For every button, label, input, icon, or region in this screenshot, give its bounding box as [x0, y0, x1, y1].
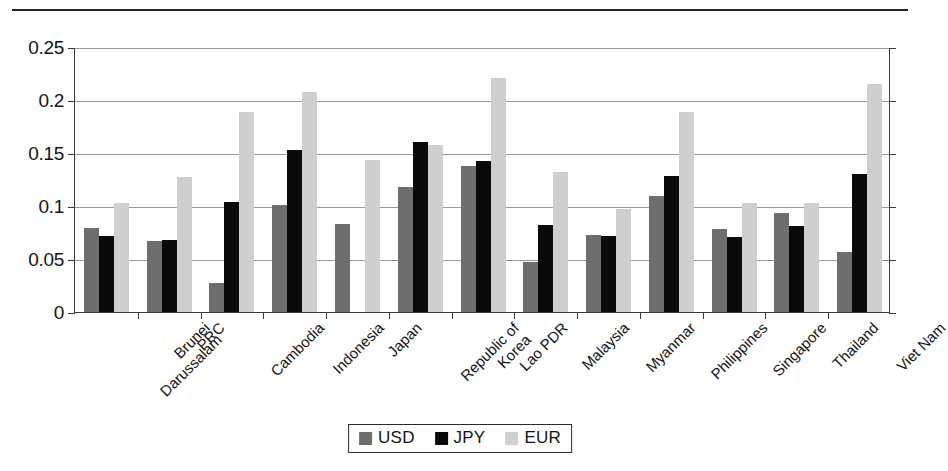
y-tick-mark [68, 207, 75, 208]
x-axis-label: Malaysia [578, 319, 632, 373]
legend-label: EUR [524, 428, 561, 448]
x-axis-label: Philippines [708, 319, 771, 382]
bar-usd [523, 262, 538, 312]
x-axis-label-line: Indonesia [329, 319, 387, 377]
y-tick-mark-right [889, 154, 896, 155]
bar-eur [491, 78, 506, 312]
x-axis-label: Japan [384, 319, 425, 360]
bar-jpy [664, 176, 679, 312]
bar-usd [147, 241, 162, 312]
bar-jpy [162, 240, 177, 312]
y-tick-label: 0.2 [38, 90, 64, 112]
x-axis-label-line: Japan [384, 319, 425, 360]
bar-eur [177, 177, 192, 312]
x-axis-label-line: Thailand [829, 319, 882, 372]
x-axis-label: Thailand [829, 319, 882, 372]
y-tick-mark [68, 48, 75, 49]
y-tick-mark-right [889, 101, 896, 102]
x-axis-label-line: Cambodia [267, 319, 327, 379]
legend-label: JPY [454, 428, 486, 448]
bar-jpy [789, 226, 804, 312]
y-tick-label: 0 [54, 302, 64, 324]
bar-eur [302, 92, 317, 312]
legend-swatch-icon [505, 432, 518, 445]
x-axis-label-line: Malaysia [578, 319, 632, 373]
y-tick-mark [68, 260, 75, 261]
x-axis-label: Myanmar [642, 319, 698, 375]
x-axis-label-line: Philippines [708, 319, 771, 382]
x-axis-label: Cambodia [267, 319, 327, 379]
bar-usd [84, 228, 99, 312]
bar-jpy [287, 150, 302, 312]
bar-eur [679, 112, 694, 312]
bar-usd [335, 224, 350, 312]
bar-usd [398, 187, 413, 312]
plot-wrapper: 00.050.10.150.20.25 [0, 30, 920, 330]
chart-legend: USDJPYEUR [348, 424, 572, 453]
y-tick-mark-right [889, 313, 896, 314]
bar-eur [867, 84, 882, 312]
bar-jpy [601, 236, 616, 312]
legend-swatch-icon [359, 432, 372, 445]
x-axis-label: Indonesia [329, 319, 387, 377]
bar-jpy [224, 202, 239, 312]
bar-eur [239, 112, 254, 312]
bar-eur [428, 145, 443, 312]
legend-item-eur[interactable]: EUR [505, 428, 561, 448]
y-axis-tick-labels: 00.050.10.150.20.25 [0, 30, 74, 330]
bar-usd [837, 252, 852, 312]
bar-usd [209, 283, 224, 312]
y-tick-mark-right [889, 207, 896, 208]
bar-jpy [727, 237, 742, 312]
bar-jpy [538, 225, 553, 312]
bar-eur [365, 160, 380, 312]
legend-item-jpy[interactable]: JPY [435, 428, 486, 448]
y-tick-mark-right [889, 48, 896, 49]
bar-usd [272, 205, 287, 312]
bar-jpy [413, 142, 428, 312]
x-axis-label-line: Myanmar [642, 319, 698, 375]
bar-jpy [852, 174, 867, 312]
legend-swatch-icon [435, 432, 448, 445]
bar-eur [804, 203, 819, 312]
bar-eur [616, 209, 631, 312]
y-tick-mark-right [889, 260, 896, 261]
y-tick-mark [68, 101, 75, 102]
bar-eur [553, 172, 568, 312]
y-tick-mark [68, 154, 75, 155]
y-tick-label: 0.1 [38, 196, 64, 218]
x-axis-label: Singapore [769, 319, 829, 379]
top-divider-rule [12, 9, 908, 11]
bar-usd [586, 235, 601, 312]
y-tick-label: 0.15 [28, 143, 64, 165]
bar-usd [774, 213, 789, 312]
bar-usd [649, 196, 664, 312]
bar-jpy [99, 236, 114, 312]
bar-jpy [476, 161, 491, 312]
x-axis-category-labels: BruneiDarussalamPRCCambodiaIndonesiaJapa… [74, 313, 890, 423]
y-tick-label: 0.25 [28, 37, 64, 59]
bar-eur [114, 203, 129, 312]
bar-eur [742, 203, 757, 312]
plot-area [74, 48, 890, 313]
legend-item-usd[interactable]: USD [359, 428, 415, 448]
bar-usd [712, 229, 727, 312]
bars-layer [75, 48, 889, 312]
bar-usd [461, 166, 476, 312]
legend-label: USD [378, 428, 415, 448]
x-axis-label-line: Singapore [769, 319, 829, 379]
y-tick-label: 0.05 [28, 249, 64, 271]
